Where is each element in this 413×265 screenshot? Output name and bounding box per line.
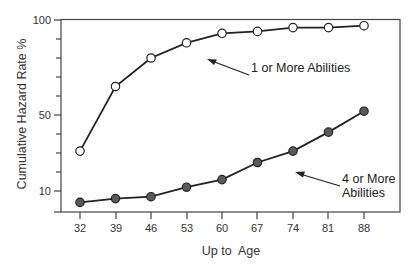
x-tick-81: 81 (322, 222, 334, 234)
filled-circle-marker (76, 198, 84, 206)
arrow-four-or-more (300, 174, 340, 186)
filled-circle-marker (253, 158, 261, 166)
y-axis (54, 20, 61, 212)
series-line (80, 26, 364, 151)
open-circle-marker (253, 27, 261, 35)
label-one-or-more: 1 or More Abilities (251, 61, 350, 75)
series-line (80, 111, 364, 202)
y-axis-title: Cumulative Hazard Rate % (15, 39, 29, 190)
y-tick-labels: 100 50 10 (33, 14, 51, 197)
annotation-one-or-more: 1 or More Abilities (207, 59, 350, 75)
open-circle-marker (218, 29, 226, 37)
y-tick-10: 10 (39, 185, 51, 197)
x-axis-title: Up to Age (202, 244, 260, 258)
y-tick-50: 50 (39, 109, 51, 121)
series-layer (76, 22, 368, 207)
filled-circle-marker (289, 147, 297, 155)
y-tick-100: 100 (33, 14, 51, 26)
filled-circle-marker (182, 183, 190, 191)
annotation-four-or-more: 4 or More Abilities (295, 172, 396, 201)
x-tick-46: 46 (145, 222, 157, 234)
arrow-one-or-more (212, 61, 249, 75)
filled-circle-marker (111, 194, 119, 202)
x-tick-67: 67 (251, 222, 263, 234)
label-four-or-more-line1: 4 or More (342, 172, 396, 186)
label-four-or-more-line2: Abilities (342, 186, 385, 200)
x-tick-74: 74 (287, 222, 299, 234)
x-tick-39: 39 (110, 222, 122, 234)
x-tick-labels: 32 39 46 53 60 67 74 81 88 (74, 222, 370, 234)
filled-circle-marker (324, 128, 332, 136)
filled-circle-marker (218, 175, 226, 183)
x-tick-32: 32 (74, 222, 86, 234)
open-circle-marker (360, 22, 368, 30)
open-circle-marker (324, 23, 332, 31)
x-axis (80, 212, 364, 219)
open-circle-marker (76, 147, 84, 155)
filled-circle-marker (360, 107, 368, 115)
arrowhead-icon (295, 172, 305, 178)
x-tick-88: 88 (358, 222, 370, 234)
filled-circle-marker (147, 193, 155, 201)
open-circle-marker (289, 23, 297, 31)
series-four-or-more (76, 107, 368, 207)
open-circle-marker (111, 82, 119, 90)
x-tick-60: 60 (216, 222, 228, 234)
open-circle-marker (182, 39, 190, 47)
x-tick-53: 53 (181, 222, 193, 234)
hazard-rate-chart: 100 50 10 32 39 46 53 60 67 74 81 88 Up … (0, 0, 413, 265)
arrowhead-icon (207, 59, 217, 65)
open-circle-marker (147, 54, 155, 62)
